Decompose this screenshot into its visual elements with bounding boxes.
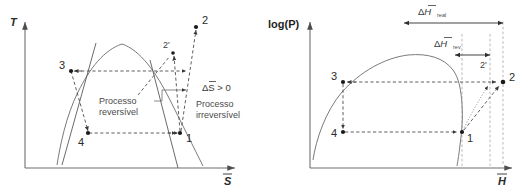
ts-point-1-label: 1 bbox=[186, 132, 192, 144]
ph-point-2-label: 2 bbox=[509, 71, 515, 83]
ph-point-1-marker bbox=[460, 130, 464, 134]
ts-path-1-2prime bbox=[174, 56, 180, 131]
figure-root: T S bbox=[0, 0, 522, 188]
logp-h-diagram-panel: log(P) H ΔH real ΔH bbox=[268, 6, 515, 188]
ts-reversible-label-group: Processo reversível bbox=[99, 90, 186, 117]
ph-delta-h-real-symbol: ΔH bbox=[418, 6, 431, 17]
ts-x-axis-label-group: S bbox=[223, 174, 232, 187]
ph-delta-h-rev-subscript: rev bbox=[453, 44, 461, 50]
ts-delta-s-annotation: ΔS > 0 bbox=[202, 82, 231, 94]
ph-delta-h-rev-symbol: ΔH bbox=[434, 38, 447, 49]
ts-x-axis-label: S bbox=[224, 175, 232, 187]
ph-point-2prime-label: 2' bbox=[480, 60, 487, 70]
ph-path-1-2prime bbox=[463, 86, 488, 130]
ts-path-3-2prime-guide bbox=[138, 56, 170, 95]
ph-x-axis-label-group: H bbox=[497, 174, 507, 187]
ts-point-2-label: 2 bbox=[202, 14, 208, 26]
ts-irreversible-line1: Processo bbox=[196, 99, 234, 109]
ph-point-3-label: 3 bbox=[331, 70, 337, 82]
ts-vapor-line bbox=[150, 60, 178, 168]
ts-delta-s-text: ΔS > 0 bbox=[202, 82, 231, 93]
ts-reversible-line2: reversível bbox=[99, 107, 138, 117]
ts-path-1-2 bbox=[181, 30, 196, 131]
ts-point-1-marker bbox=[178, 131, 182, 135]
thermodynamic-diagrams-svg: T S bbox=[0, 0, 522, 188]
ts-point-3-label: 3 bbox=[59, 59, 65, 71]
ph-x-axis-label: H bbox=[498, 175, 507, 187]
ph-saturation-dome-right bbox=[457, 104, 462, 166]
ts-diagram-panel: T S bbox=[10, 14, 240, 187]
ts-point-2prime-marker bbox=[171, 51, 175, 55]
ts-point-3-marker bbox=[69, 69, 73, 73]
ts-y-axis-label: T bbox=[10, 16, 18, 28]
ph-point-1-label: 1 bbox=[467, 132, 473, 144]
ph-y-axis-label: log(P) bbox=[268, 18, 299, 30]
ph-point-4-marker bbox=[341, 130, 345, 134]
ts-point-2prime-label: 2' bbox=[163, 40, 170, 50]
ph-point-3-marker bbox=[341, 80, 345, 84]
ts-point-4-label: 4 bbox=[78, 136, 84, 148]
ts-point-2-marker bbox=[194, 25, 198, 29]
ts-irreversible-label-group: Processo irreversível bbox=[196, 99, 240, 120]
ph-point-4-label: 4 bbox=[331, 127, 337, 139]
ts-point-4-marker bbox=[86, 131, 90, 135]
ph-delta-h-real-group: ΔH real bbox=[404, 6, 503, 24]
ts-reversible-line1: Processo bbox=[99, 96, 137, 106]
ph-delta-h-real-subscript: real bbox=[437, 12, 446, 18]
ts-irreversible-line2: irreversível bbox=[196, 110, 240, 120]
ph-point-2-marker bbox=[501, 80, 506, 85]
ph-path-1-2 bbox=[464, 86, 499, 130]
